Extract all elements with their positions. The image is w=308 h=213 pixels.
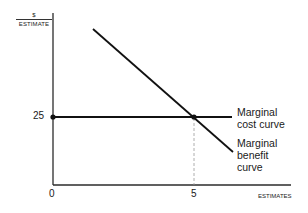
y-axis-label-numerator: $ bbox=[16, 12, 52, 19]
y-axis-label-denominator: ESTIMATE bbox=[16, 19, 52, 27]
equilibrium-point bbox=[191, 114, 196, 119]
y-tick-25: 25 bbox=[33, 111, 44, 121]
y-intercept-point bbox=[50, 114, 55, 119]
x-axis-label: ESTIMATES bbox=[258, 193, 292, 199]
marginal-benefit-label-line2: benefit bbox=[237, 149, 277, 161]
marginal-cost-label-line2: cost curve bbox=[237, 118, 285, 130]
marginal-benefit-label-line1: Marginal bbox=[237, 137, 277, 149]
marginal-benefit-label: Marginal benefit curve bbox=[237, 137, 277, 173]
marginal-benefit-curve bbox=[93, 29, 233, 152]
y-axis-label: $ ESTIMATE bbox=[16, 12, 52, 27]
x-tick-5: 5 bbox=[191, 189, 197, 199]
marginal-benefit-label-line3: curve bbox=[237, 161, 277, 173]
x-tick-0: 0 bbox=[49, 189, 55, 199]
marginal-cost-label-line1: Marginal bbox=[237, 106, 285, 118]
marginal-cost-label: Marginal cost curve bbox=[237, 106, 285, 130]
